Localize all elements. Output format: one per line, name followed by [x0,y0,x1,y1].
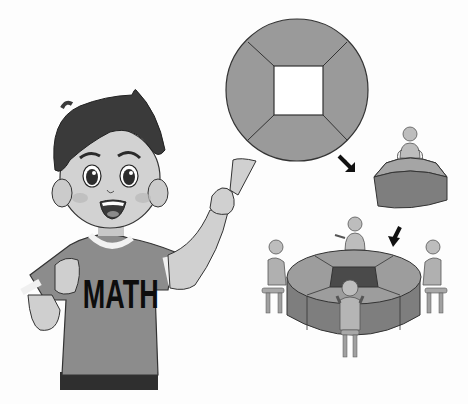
single-segment [374,127,447,208]
left-arm [28,295,60,330]
left-sleeve-cuff [22,282,40,292]
pointing-hand [210,188,234,215]
illustration-svg: MATH [0,0,468,404]
left-fist [55,258,79,294]
left-ear [52,179,72,207]
illustration-canvas: MATH [0,0,468,404]
right-ear [148,179,168,207]
ring-table-top-view [226,19,368,161]
shirt-text: MATH [83,271,159,316]
arrow-icon [388,227,400,247]
boy-character: MATH [22,90,256,390]
arrow-icon [339,156,355,172]
index-finger [230,159,256,195]
assembled-ring-table [262,217,447,357]
right-arm [168,210,228,289]
